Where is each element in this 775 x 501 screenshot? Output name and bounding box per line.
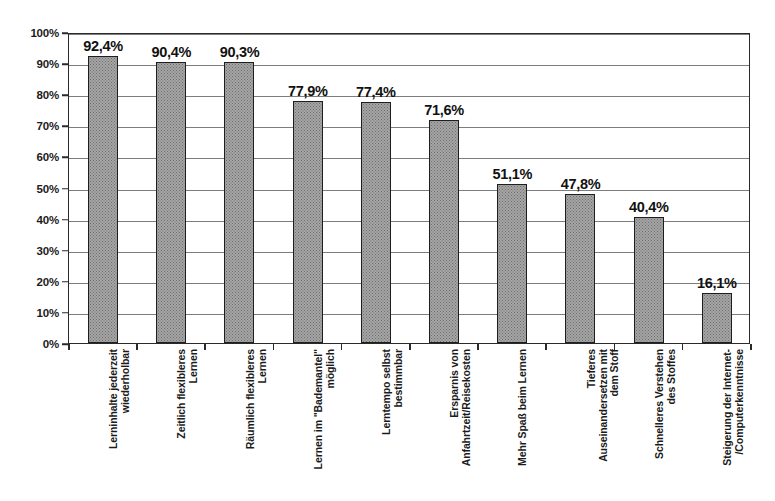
x-axis-label: TieferesAuseinandersetzen mitdem Stoff (586, 349, 621, 499)
bar-value-label: 16,1% (697, 275, 737, 291)
bar-value-label: 71,6% (424, 102, 464, 118)
y-tick-label: 60% (37, 151, 59, 163)
x-axis-label-line: möglich (324, 349, 336, 499)
bar-slot[interactable] (205, 34, 273, 343)
x-axis-label: Ersparnis vonAnfahrtzeit/Reisekosten (449, 349, 472, 499)
x-axis-label: Steigerung der Internet-/Computerkenntni… (722, 349, 745, 499)
x-axis-label-line: Lerninhalte jederzeit (108, 349, 120, 499)
x-axis-label-line: Lernen im "Bademantel" (313, 349, 325, 499)
x-axis-label-line: Tieferes (586, 349, 598, 499)
bar[interactable] (293, 101, 323, 343)
bar-value-label: 77,9% (288, 83, 328, 99)
bar-slot[interactable] (137, 34, 205, 343)
x-axis-label-line: Anfahrtzeit/Reisekosten (461, 349, 473, 499)
x-axis-label: Zeitlich flexibleresLernen (176, 349, 199, 499)
x-axis-label: Lerninhalte jederzeitwiederholbar (108, 349, 131, 499)
bar-value-label: 90,4% (151, 44, 191, 60)
x-axis-label-line: Auseinandersetzen mit (597, 349, 609, 499)
y-axis: 0%10%20%30%40%50%60%70%80%90%100% (0, 33, 68, 344)
bar[interactable] (565, 194, 595, 343)
x-axis-label-line: des Stoffes (665, 349, 677, 499)
bar-value-label: 47,8% (561, 176, 601, 192)
bar-slot[interactable] (274, 34, 342, 343)
y-tick-label: 40% (37, 214, 59, 226)
bar[interactable] (429, 120, 459, 343)
bar[interactable] (497, 184, 527, 343)
y-tick-label: 50% (37, 183, 59, 195)
y-tick-label: 20% (37, 276, 59, 288)
y-tick-label: 100% (30, 27, 59, 39)
x-axis-label-line: Mehr Spaß beim Lernen (517, 349, 529, 499)
bar[interactable] (702, 293, 732, 343)
y-tick-label: 90% (37, 58, 59, 70)
bar-value-label: 90,3% (220, 44, 260, 60)
y-tick-label: 10% (37, 307, 59, 319)
x-axis-label: Räumlich flexibleresLernen (245, 349, 268, 499)
bar[interactable] (361, 102, 391, 343)
bar-slot[interactable] (342, 34, 410, 343)
bar-value-label: 40,4% (629, 199, 669, 215)
x-axis-label: Lerntempo selbstbestimmbar (381, 349, 404, 499)
x-axis-label: Lernen im "Bademantel"möglich (313, 349, 336, 499)
x-axis-label-line: Lernen (256, 349, 268, 499)
x-axis-label-line: dem Stoff (609, 349, 621, 499)
x-axis-label: Schnelleres Verstehendes Stoffes (654, 349, 677, 499)
bar-value-label: 92,4% (83, 38, 123, 54)
plot-area: 92,4%90,4%90,3%77,9%77,4%71,6%51,1%47,8%… (68, 33, 750, 344)
bar-slot[interactable] (478, 34, 546, 343)
x-axis-label-line: Lernen (188, 349, 200, 499)
x-axis-label-line: Schnelleres Verstehen (654, 349, 666, 499)
x-axis-label-line: Steigerung der Internet- (722, 349, 734, 499)
x-axis-label-line: wiederholbar (120, 349, 132, 499)
x-axis-label-line: Räumlich flexibleres (245, 349, 257, 499)
bar-value-label: 51,1% (492, 166, 532, 182)
bar-slot[interactable] (410, 34, 478, 343)
y-tick-label: 70% (37, 120, 59, 132)
bar[interactable] (156, 62, 186, 343)
y-tick-label: 30% (37, 245, 59, 257)
y-tick-label: 80% (37, 89, 59, 101)
bar-slot[interactable] (615, 34, 683, 343)
bar-chart: 0%10%20%30%40%50%60%70%80%90%100% 92,4%9… (0, 0, 775, 501)
x-axis-label-line: Ersparnis von (449, 349, 461, 499)
bar-slot[interactable] (69, 34, 137, 343)
x-axis-label: Mehr Spaß beim Lernen (517, 349, 529, 499)
bar[interactable] (634, 217, 664, 343)
x-axis-label-line: Lerntempo selbst (381, 349, 393, 499)
bar[interactable] (88, 56, 118, 343)
x-axis-labels: Lerninhalte jederzeitwiederholbarZeitlic… (0, 349, 775, 501)
x-axis-label-line: bestimmbar (392, 349, 404, 499)
bar-value-label: 77,4% (356, 84, 396, 100)
bar[interactable] (224, 62, 254, 343)
bars-layer: 92,4%90,4%90,3%77,9%77,4%71,6%51,1%47,8%… (69, 34, 749, 343)
x-axis-label-line: /Computerkenntnisse (733, 349, 745, 499)
bar-slot[interactable] (683, 34, 751, 343)
